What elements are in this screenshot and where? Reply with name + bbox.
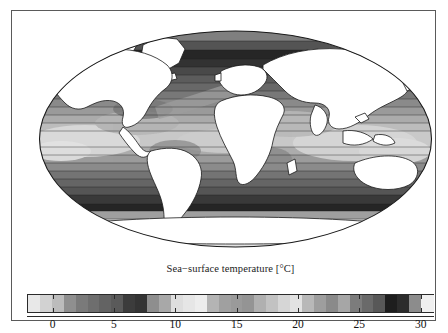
colorbar-tick-label: 0 (50, 318, 56, 330)
colorbar-tick-labels: 051015202530 (27, 318, 434, 333)
colorbar-band (195, 295, 208, 312)
colorbar-tick (114, 295, 115, 299)
colorbar-tick-label: 15 (231, 318, 243, 330)
colorbar-tick (53, 295, 54, 299)
sst-map-figure: Sea−surface temperature [°C] 05101520253… (0, 0, 448, 333)
colorbar-band (266, 295, 279, 312)
figure-frame: Sea−surface temperature [°C] 05101520253… (11, 10, 436, 321)
colorbar-tick (359, 295, 360, 299)
colorbar-tick (359, 308, 360, 312)
colorbar-axis-line (27, 316, 434, 317)
colorbar-band (183, 295, 196, 312)
colorbar-tick-label: 10 (170, 318, 182, 330)
colorbar-tick (53, 308, 54, 312)
colorbar-band (326, 295, 339, 312)
colorbar-block: Sea−surface temperature [°C] 05101520253… (27, 263, 448, 333)
colorbar-band (290, 295, 303, 312)
colorbar-band (302, 295, 315, 312)
colorbar-band (135, 295, 148, 312)
colorbar-tick (298, 295, 299, 299)
colorbar-band (123, 295, 136, 312)
colorbar-band (421, 295, 434, 312)
colorbar-tick (237, 295, 238, 299)
colorbar-tick (114, 308, 115, 312)
colorbar-tick (421, 308, 422, 312)
colorbar-tick-label: 25 (354, 318, 366, 330)
colorbar-tick-label: 20 (292, 318, 304, 330)
colorbar-tick (421, 295, 422, 299)
colorbar-band (242, 295, 255, 312)
colorbar-band (159, 295, 172, 312)
landmass-new-zealand (421, 187, 433, 199)
colorbar-tick (175, 295, 176, 299)
colorbar-band (373, 295, 386, 312)
colorbar-band (278, 295, 291, 312)
colorbar-band (76, 295, 89, 312)
colorbar-band (362, 295, 375, 312)
colorbar-band (338, 295, 351, 312)
colorbar-band (52, 295, 65, 312)
colorbar-band (397, 295, 410, 312)
colorbar-band (254, 295, 267, 312)
world-map-panel (25, 23, 446, 255)
colorbar-band (314, 295, 327, 312)
colorbar-band (64, 295, 77, 312)
colorbar-band (88, 295, 101, 312)
world-map-svg (25, 23, 446, 255)
colorbar-band (385, 295, 398, 312)
colorbar-tick-label: 30 (415, 318, 427, 330)
colorbar-tick-label: 5 (111, 318, 117, 330)
landmass-antarctica (31, 217, 439, 244)
colorbar-band (99, 295, 112, 312)
colorbar-band (207, 295, 220, 312)
colorbar-band (147, 295, 160, 312)
colorbar-tick (175, 308, 176, 312)
colorbar-band (40, 295, 53, 312)
colorbar-tick (298, 308, 299, 312)
colorbar-band (28, 295, 41, 312)
colorbar-gradient[interactable] (27, 294, 434, 313)
colorbar-title: Sea−surface temperature [°C] (27, 263, 434, 274)
colorbar-band (171, 295, 184, 312)
colorbar-tick (237, 308, 238, 312)
colorbar-band (219, 295, 232, 312)
